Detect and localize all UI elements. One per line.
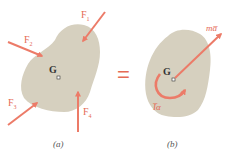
linear-acceleration-label: ma̅ [206,24,217,33]
centroid-marker-a [57,76,60,79]
equals-sign: = [117,64,130,86]
force-label-f2: F2 [24,35,33,47]
force-label-f1: F1 [81,10,90,22]
caption-a: (a) [53,140,64,149]
free-body-diagram-figure: F1 F2 F3 F4 G (a) = ma̅ G I̅α (b) [0,0,230,155]
force-label-f4: F4 [83,107,92,119]
centroid-marker-b [172,78,175,81]
rigid-body-a [21,24,100,112]
angular-acceleration-label: I̅α [153,103,161,112]
caption-b: (b) [167,140,178,149]
force-label-f3: F3 [8,98,17,110]
centroid-label-a: G [49,65,57,75]
centroid-label-b: G [163,67,171,77]
diagram-canvas [0,0,230,155]
